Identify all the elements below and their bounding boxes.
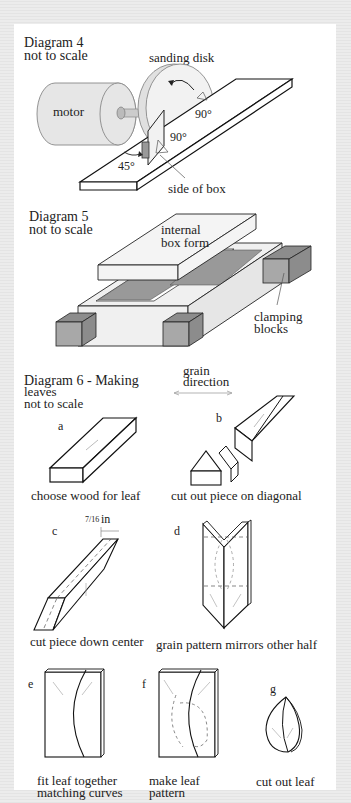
- step-b-pieces: [191, 396, 294, 485]
- fraction-label: 7/16: [85, 515, 99, 524]
- grain-label-2: direction: [183, 374, 230, 389]
- angle-90-mid: 90°: [170, 130, 187, 144]
- step-e-letter: e: [28, 677, 33, 691]
- diagram-5: Diagram 5 not to scale: [29, 209, 311, 346]
- step-b-letter: b: [216, 411, 222, 425]
- clamping-block-left: [56, 313, 96, 346]
- side-of-box-label: side of box: [168, 181, 226, 196]
- step-d-piece: [203, 520, 251, 628]
- step-d-caption: grain pattern mirrors other half: [156, 637, 318, 652]
- step-d-letter: d: [174, 524, 180, 538]
- sanding-disk-label: sanding disk: [149, 50, 215, 65]
- step-f-piece: [159, 669, 218, 757]
- step-g-caption: cut out leaf: [256, 774, 315, 789]
- diagram-4-subtitle: not to scale: [24, 48, 88, 63]
- step-c-caption: cut piece down center: [30, 634, 144, 649]
- internal-box-form-label-2: box form: [161, 235, 209, 250]
- step-e-piece: [45, 669, 104, 757]
- step-a-caption: choose wood for leaf: [31, 488, 141, 503]
- unit-label: in: [101, 512, 110, 526]
- diagram-6-subtitle: not to scale: [24, 396, 83, 411]
- diagram-5-subtitle: not to scale: [29, 222, 93, 237]
- diagram-4: Diagram 4 not to scale sanding disk moto…: [24, 35, 292, 196]
- step-b-caption: cut out piece on diagonal: [171, 488, 302, 503]
- clamping-blocks-label-2: blocks: [254, 321, 288, 336]
- motor-label: motor: [53, 104, 85, 119]
- step-c-letter: c: [52, 524, 57, 538]
- angle-90-top: 90°: [195, 107, 212, 121]
- step-c-piece: [34, 539, 118, 630]
- diagram-canvas: Diagram 4 not to scale sanding disk moto…: [0, 0, 351, 803]
- step-f-caption-2: pattern: [149, 785, 186, 800]
- step-f-letter: f: [142, 677, 146, 691]
- leaf-icon: [266, 697, 302, 752]
- diagram-6: Diagram 6 - Making leaves not to scale g…: [24, 363, 318, 800]
- clamping-block-middle: [163, 313, 203, 346]
- step-g-letter: g: [270, 682, 276, 696]
- angle-45: 45°: [118, 159, 135, 173]
- grain-direction-arrow-icon: [174, 391, 232, 395]
- step-a-letter: a: [58, 419, 64, 433]
- step-e-caption-2: matching curves: [37, 785, 123, 800]
